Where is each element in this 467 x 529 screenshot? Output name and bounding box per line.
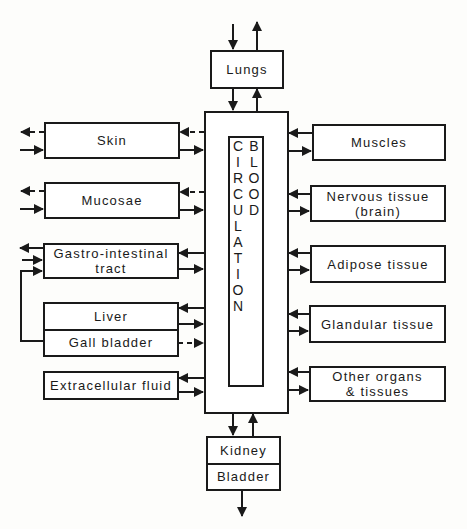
blood-circulation-label: BLOOD CIRCULATION: [230, 138, 262, 385]
adipose-label: Adipose tissue: [327, 257, 428, 272]
skin-box: Skin: [44, 122, 180, 159]
gall-bladder-label: Gall bladder: [69, 335, 154, 350]
nervous-label-line2: (brain): [355, 204, 401, 219]
blood-circulation-inner-box: BLOOD CIRCULATION: [228, 136, 264, 387]
other-label-line2: & tissues: [346, 384, 410, 399]
blood-circulation-diagram: Lungs BLOOD CIRCULATION Skin Mucosae Gas…: [0, 0, 467, 529]
lungs-label: Lungs: [226, 62, 267, 77]
mucosae-label: Mucosae: [81, 193, 142, 208]
kidney-bladder-box: Kidney Bladder: [206, 436, 281, 491]
other-label-line1: Other organs: [332, 369, 422, 384]
liver-gall-bladder-box: Liver Gall bladder: [43, 302, 179, 357]
liver-cell: Liver: [45, 304, 177, 329]
nervous-label-line1: Nervous tissue: [327, 189, 430, 204]
muscles-label: Muscles: [351, 135, 407, 150]
gall-bladder-cell: Gall bladder: [45, 329, 177, 356]
liver-label: Liver: [94, 309, 128, 324]
muscles-box: Muscles: [312, 124, 446, 161]
glandular-tissue-box: Glandular tissue: [309, 305, 446, 343]
glandular-label: Glandular tissue: [321, 317, 434, 332]
skin-label: Skin: [97, 133, 127, 148]
nervous-tissue-box: Nervous tissue (brain): [310, 185, 446, 222]
kidney-cell: Kidney: [208, 438, 279, 463]
bladder-label: Bladder: [217, 469, 270, 484]
arrow-bile-loop: [21, 271, 43, 341]
extracellular-label: Extracellular fluid: [50, 378, 172, 393]
other-organs-box: Other organs & tissues: [309, 366, 446, 402]
gastro-label-line1: Gastro-intestinal: [53, 246, 168, 261]
mucosae-box: Mucosae: [44, 182, 180, 219]
gastro-intestinal-box: Gastro-intestinal tract: [43, 243, 179, 279]
gastro-label-line2: tract: [95, 261, 126, 276]
kidney-label: Kidney: [220, 443, 267, 458]
adipose-tissue-box: Adipose tissue: [310, 245, 446, 283]
lungs-box: Lungs: [210, 50, 284, 89]
extracellular-fluid-box: Extracellular fluid: [43, 371, 179, 400]
bladder-cell: Bladder: [208, 463, 279, 490]
